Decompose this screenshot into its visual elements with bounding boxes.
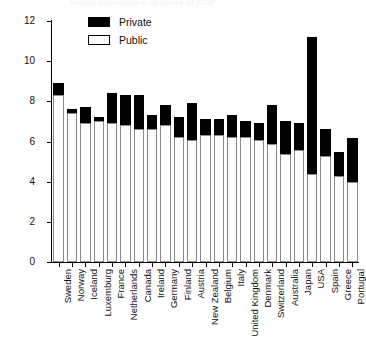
x-axis-tick-4 (112, 263, 113, 267)
legend-swatch-private-icon (88, 17, 110, 27)
x-axis-label-spain: Spain (330, 269, 340, 293)
bar-iceland (80, 107, 90, 262)
bar-segment-public (214, 135, 224, 262)
bar-segment-private (320, 129, 330, 155)
x-axis-label-switzerland: Switzerland (276, 269, 286, 318)
bar-segment-public (280, 154, 290, 262)
legend-label-public: Public (119, 35, 148, 46)
legend-label-private: Private (119, 17, 152, 28)
bar-segment-private (147, 115, 157, 129)
x-axis-tick-14 (246, 263, 247, 267)
bar-segment-public (120, 125, 130, 262)
bar-segment-private (160, 105, 170, 125)
y-axis-label-8: 8 (29, 96, 41, 106)
bar-segment-private (107, 93, 117, 123)
y-axis-label-2: 2 (29, 217, 41, 227)
bar-segment-public (160, 125, 170, 262)
bar-segment-public (254, 140, 264, 263)
x-axis-label-australia: Australia (290, 269, 300, 306)
x-axis-tick-20 (326, 263, 327, 267)
x-axis-tick-13 (232, 263, 233, 267)
bar-segment-private (267, 105, 277, 143)
x-axis-tick-7 (152, 263, 153, 267)
bar-usa (307, 37, 317, 262)
bar-greece (334, 152, 344, 262)
bar-segment-public (320, 156, 330, 262)
bar-segment-private (120, 95, 130, 125)
bar-portugal (347, 137, 357, 262)
x-axis-label-austria: Austria (196, 269, 206, 299)
legend-item-private: Private (88, 14, 152, 30)
x-axis-tick-19 (312, 263, 313, 267)
bar-ireland (147, 115, 157, 262)
x-axis-label-usa: USA (316, 269, 326, 289)
bar-segment-public (107, 123, 117, 262)
bar-segment-private (254, 123, 264, 139)
bar-segment-private (294, 123, 304, 149)
bar-segment-public (187, 140, 197, 263)
bar-canada (134, 95, 144, 262)
x-axis-tick-16 (272, 263, 273, 267)
bar-spain (320, 129, 330, 262)
x-axis-tick-6 (139, 263, 140, 267)
bar-segment-private (200, 119, 210, 135)
bar-segment-private (214, 119, 224, 135)
y-axis-label-12: 12 (24, 16, 41, 26)
x-axis-label-portugal: Portugal (356, 269, 366, 304)
x-axis-label-france: France (116, 269, 126, 299)
bar-segment-public (53, 95, 63, 262)
bar-austria (187, 103, 197, 262)
bar-germany (160, 105, 170, 262)
y-axis-label-10: 10 (24, 56, 41, 66)
x-axis-tick-11 (206, 263, 207, 267)
x-axis-tick-2 (85, 263, 86, 267)
x-axis-tick-22 (352, 263, 353, 267)
x-axis-tick-0 (59, 263, 60, 267)
x-axis-tick-1 (72, 263, 73, 267)
x-axis-label-italy: Italy (236, 269, 246, 286)
bar-segment-public (174, 137, 184, 262)
bar-japan (294, 123, 304, 262)
bar-segment-private (67, 109, 77, 113)
bar-segment-private (174, 117, 184, 137)
x-axis-tick-17 (286, 263, 287, 267)
legend-item-public: Public (88, 32, 152, 48)
bar-segment-public (147, 129, 157, 262)
bar-segment-public (80, 123, 90, 262)
bar-segment-private (134, 95, 144, 129)
bar-segment-private (53, 83, 63, 95)
stacked-bar-chart: Health expenditure as share of GDP 02468… (0, 0, 366, 349)
x-axis-label-greece: Greece (343, 269, 353, 300)
x-axis-label-japan: Japan (303, 269, 313, 295)
chart-legend: Private Public (88, 14, 152, 50)
bar-segment-private (187, 103, 197, 139)
x-axis-label-norway: Norway (76, 269, 86, 301)
legend-swatch-public-icon (88, 35, 110, 45)
x-axis-label-luxemburg: Luxemburg (103, 269, 113, 317)
bar-segment-public (200, 135, 210, 262)
x-axis-label-iceland: Iceland (89, 269, 99, 300)
bar-segment-public (94, 121, 104, 262)
bar-segment-private (240, 121, 250, 137)
bar-segment-public (334, 176, 344, 262)
bar-switzerland (267, 105, 277, 262)
x-axis-label-new-zealand: New Zealand (210, 269, 220, 325)
y-axis-tick-0: 0 (47, 262, 52, 263)
x-axis-label-denmark: Denmark (263, 269, 273, 308)
x-axis-label-united-kingdom: United Kingdom (250, 269, 260, 337)
x-axis-tick-5 (125, 263, 126, 267)
y-axis-label-4: 4 (29, 177, 41, 187)
y-axis-label-6: 6 (29, 137, 41, 147)
bar-segment-public (307, 174, 317, 262)
bar-segment-private (307, 37, 317, 174)
y-axis-label-0: 0 (29, 257, 41, 267)
x-axis-label-finland: Finland (183, 269, 193, 300)
x-axis-tick-21 (339, 263, 340, 267)
faint-header-text: Health expenditure as share of GDP (70, 0, 320, 12)
bar-norway (67, 109, 77, 262)
bar-segment-private (227, 115, 237, 137)
bar-netherlands (120, 95, 130, 262)
bar-segment-public (240, 137, 250, 262)
x-axis-label-ireland: Ireland (156, 269, 166, 298)
bar-segment-private (280, 121, 290, 153)
